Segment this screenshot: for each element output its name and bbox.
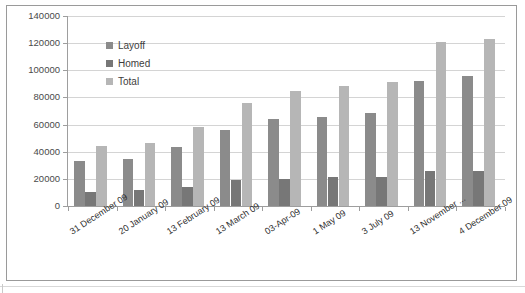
bar-homed [279,179,290,206]
chart-legend: LayoffHomedTotal [106,36,196,90]
x-axis-tick [408,207,409,211]
y-axis-tick-label: 120000 [28,38,60,48]
legend-swatch-icon [106,60,113,67]
legend-swatch-icon [106,78,113,85]
bar-total [436,42,447,206]
bar-group [317,16,350,206]
y-axis-tick [63,125,67,126]
legend-item-label: Total [118,76,139,87]
bar-layoff [268,119,279,206]
y-axis-tick-label: 40000 [34,147,60,157]
bar-group [462,16,495,206]
bar-total [242,103,253,206]
bar-homed [473,171,484,206]
bar-chart-figure: 020000400006000080000100000120000140000 … [0,0,525,293]
legend-item-homed[interactable]: Homed [106,54,196,72]
bar-group [74,16,107,206]
legend-item-label: Layoff [118,40,145,51]
legend-swatch-icon [106,42,113,49]
bar-layoff [414,81,425,206]
gridline [68,206,505,207]
x-axis-tick [68,207,69,211]
y-axis-tick [63,16,67,17]
page-edge-artifact [0,286,525,287]
y-axis-tick [63,206,67,207]
bar-layoff [462,76,473,206]
bar-homed [182,187,193,206]
x-axis-tick [165,207,166,211]
y-axis-tick-label: 100000 [28,65,60,75]
legend-item-layoff[interactable]: Layoff [106,36,196,54]
bar-layoff [74,161,85,206]
bar-homed [134,190,145,206]
x-axis-tick [311,207,312,211]
y-axis-tick-labels: 020000400006000080000100000120000140000 [0,0,60,293]
bar-group [365,16,398,206]
y-axis-tick-label: 140000 [28,11,60,21]
y-axis-tick-label: 20000 [34,174,60,184]
bar-layoff [317,117,328,206]
x-axis-tick [359,207,360,211]
x-axis-tick [262,207,263,211]
bar-total [387,82,398,206]
x-axis-tick [505,207,506,211]
bar-total [484,39,495,206]
x-axis-tick [456,207,457,211]
page-edge-artifact-left [2,284,3,293]
bar-homed [231,180,242,206]
bar-total [145,143,156,206]
x-axis-tick [214,207,215,211]
bar-total [193,127,204,206]
bar-total [96,146,107,206]
bar-homed [328,177,339,206]
y-axis-tick [63,43,67,44]
bar-layoff [220,130,231,206]
bar-group [220,16,253,206]
y-axis-tick [63,152,67,153]
bar-layoff [171,147,182,206]
y-axis-tick [63,179,67,180]
y-axis-tick-label: 0 [55,201,60,211]
y-axis-tick [63,70,67,71]
bar-total [290,91,301,206]
legend-item-label: Homed [118,58,150,69]
y-axis-tick-label: 60000 [34,120,60,130]
y-axis-tick-label: 80000 [34,92,60,102]
bar-layoff [365,113,376,206]
bar-homed [425,171,436,206]
bar-homed [376,177,387,206]
legend-item-total[interactable]: Total [106,72,196,90]
bar-group [414,16,447,206]
bar-group [268,16,301,206]
y-axis-tick [63,97,67,98]
x-axis-tick [117,207,118,211]
bar-total [339,86,350,206]
bar-homed [85,192,96,206]
bar-layoff [123,159,134,207]
